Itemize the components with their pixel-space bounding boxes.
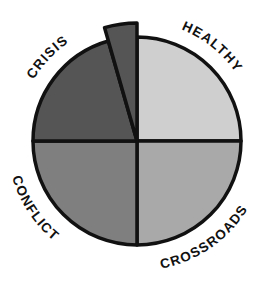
pie-chart: CRISIS HEALTHY CONFLICT CROSSROADS	[0, 0, 279, 289]
